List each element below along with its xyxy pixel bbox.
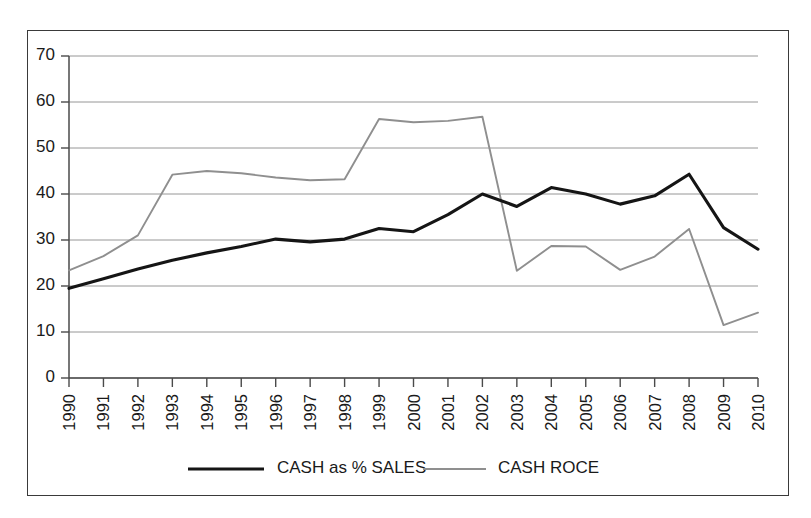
x-tick-label-2007: 2007: [646, 394, 664, 431]
x-tick-label-2002: 2002: [473, 394, 491, 431]
x-tick-label-1992: 1992: [129, 394, 147, 431]
x-tick-label-1999: 1999: [370, 394, 388, 431]
chart-plot-container: 010203040506070 199019911992199319941995…: [28, 31, 790, 497]
x-tick-label-1998: 1998: [336, 394, 354, 431]
x-tick-marks-group: [69, 378, 758, 387]
axes-group: [61, 56, 758, 378]
x-tick-label-1990: 1990: [60, 394, 78, 431]
x-tick-label-2004: 2004: [542, 394, 560, 431]
legend-label-cash-as-sales: CASH as % SALES: [277, 458, 426, 477]
x-tick-label-2009: 2009: [715, 394, 733, 431]
y-tick-labels-group: 010203040506070: [36, 45, 55, 386]
x-tick-label-1993: 1993: [163, 394, 181, 431]
chart-figure-frame: 010203040506070 199019911992199319941995…: [27, 30, 789, 496]
x-tick-label-2010: 2010: [749, 394, 767, 431]
series-line-cash-as-sales: [69, 174, 758, 288]
y-tick-label-0: 0: [46, 367, 55, 386]
y-tick-label-60: 60: [36, 91, 55, 110]
x-tick-label-2005: 2005: [577, 394, 595, 431]
legend-label-cash-roce: CASH ROCE: [498, 458, 599, 477]
y-tick-label-30: 30: [36, 229, 55, 248]
x-tick-label-1991: 1991: [94, 394, 112, 431]
y-tick-label-20: 20: [36, 275, 55, 294]
x-tick-label-1994: 1994: [198, 394, 216, 431]
chart-legend: CASH as % SALESCASH ROCE: [188, 458, 599, 477]
x-tick-labels-group: 1990199119921993199419951996199719981999…: [60, 394, 767, 431]
y-tick-label-40: 40: [36, 183, 55, 202]
y-tick-label-50: 50: [36, 137, 55, 156]
x-tick-label-2008: 2008: [680, 394, 698, 431]
x-tick-label-1997: 1997: [301, 394, 319, 431]
gridlines-group: [69, 56, 758, 378]
x-tick-label-2001: 2001: [439, 394, 457, 431]
y-tick-label-10: 10: [36, 321, 55, 340]
x-tick-label-1995: 1995: [232, 394, 250, 431]
x-tick-label-2003: 2003: [508, 394, 526, 431]
x-tick-label-1996: 1996: [267, 394, 285, 431]
x-tick-label-2000: 2000: [405, 394, 423, 431]
line-chart-svg: 010203040506070 199019911992199319941995…: [28, 31, 790, 497]
x-tick-label-2006: 2006: [611, 394, 629, 431]
y-tick-label-70: 70: [36, 45, 55, 64]
